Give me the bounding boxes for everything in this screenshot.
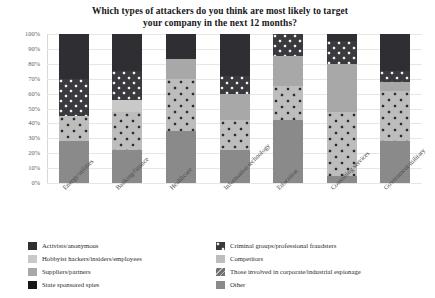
legend-item[interactable]: Hobbyist hackers/insiders/employees (28, 252, 142, 265)
legend-item[interactable]: State sponsored spies (28, 278, 142, 291)
bar-segment (327, 41, 357, 63)
legend-swatch-icon (28, 268, 37, 276)
bar-segment (112, 100, 142, 112)
bar-segment (166, 34, 196, 59)
legend-item-label: State sponsored spies (42, 281, 99, 289)
bar-segment (327, 34, 357, 41)
legend-swatch-icon (216, 255, 225, 263)
plot-area: 100%90%80%70%60%50%40%30%20%10%0% (47, 34, 422, 183)
legend-item-label: Activists/anonymous (42, 242, 98, 250)
bar-segment (273, 34, 303, 56)
legend-item-label: Suppliers/partners (42, 268, 91, 276)
bar-segment (380, 71, 410, 81)
y-axis-tick-label: 20% (6, 150, 40, 156)
legend-column-left: Activists/anonymousHobbyist hackers/insi… (28, 239, 142, 291)
legend-item[interactable]: Activists/anonymous (28, 239, 142, 252)
y-axis-tick-label: 80% (6, 61, 40, 67)
legend-item-label: Other (230, 281, 245, 289)
bar-segment (59, 34, 89, 79)
bar-segment (220, 94, 250, 121)
bar-segment (112, 71, 142, 99)
legend-swatch-icon (28, 255, 37, 263)
bar-segment (220, 34, 250, 76)
bar-segment (380, 82, 410, 91)
legend-item[interactable]: Those involved in corporate/industrial e… (216, 265, 361, 278)
bar-healthcare (166, 34, 196, 183)
y-axis-tick-label: 100% (6, 31, 40, 37)
y-axis-tick-label: 90% (6, 46, 40, 52)
bar-segment (166, 59, 196, 78)
legend-item-label: Hobbyist hackers/insiders/employees (42, 255, 142, 263)
legend-swatch-icon (216, 281, 225, 289)
bar-consulting-services (327, 34, 357, 183)
stacked-bar-chart: Which types of attackers do you think ar… (0, 0, 435, 298)
bar-segment (59, 116, 89, 141)
y-axis-tick-label: 10% (6, 165, 40, 171)
bar-segment (380, 34, 410, 71)
bar-segment (166, 79, 196, 131)
chart-title-line-1: Which types of attackers do you think ar… (50, 6, 390, 18)
legend-item-label: Those involved in corporate/industrial e… (230, 268, 361, 276)
bar-segment (273, 86, 303, 120)
y-axis-tick-label: 70% (6, 76, 40, 82)
y-axis-tick-label: 0% (6, 180, 40, 186)
legend-item[interactable]: Suppliers/partners (28, 265, 142, 278)
legend-column-right: Criminal groups/professional fraudstersC… (216, 239, 361, 291)
bar-segment (59, 79, 89, 116)
bar-information-technology (220, 34, 250, 183)
bar-segment (220, 120, 250, 150)
legend-swatch-icon (216, 268, 225, 276)
legend-item[interactable]: Criminal groups/professional fraudsters (216, 239, 361, 252)
y-axis-tick-label: 60% (6, 91, 40, 97)
legend-swatch-icon (216, 242, 225, 250)
bar-segment (327, 64, 357, 112)
y-axis-tick-label: 30% (6, 135, 40, 141)
legend-item-label: Criminal groups/professional fraudsters (230, 242, 336, 250)
legend-item-label: Competitors (230, 255, 263, 263)
bar-segment (112, 34, 142, 71)
bar-segment (220, 76, 250, 94)
chart-title-line-2: your company in the next 12 months? (50, 18, 390, 30)
chart-title: Which types of attackers do you think ar… (50, 6, 390, 29)
bar-segment (112, 112, 142, 151)
bar-segment (273, 56, 303, 86)
legend-swatch-icon (28, 281, 37, 289)
bar-segment (380, 91, 410, 142)
bar-energy-utilities (59, 34, 89, 183)
legend-swatch-icon (28, 242, 37, 250)
legend-item[interactable]: Competitors (216, 252, 361, 265)
legend-item[interactable]: Other (216, 278, 361, 291)
y-axis-tick-label: 50% (6, 106, 40, 112)
bar-education (273, 34, 303, 183)
y-axis-tick-label: 40% (6, 120, 40, 126)
